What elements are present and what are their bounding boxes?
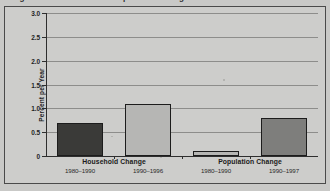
scanned-figure-page: Figure 2. Household and Population Chang… (0, 0, 330, 191)
y-axis-tick-label: 0.5 (31, 129, 40, 136)
scan-speckle (111, 136, 113, 137)
x-axis-labels: 1980–19901990–1996Household Change1980–1… (46, 156, 318, 186)
y-axis-tick (42, 85, 47, 86)
gridline (46, 37, 318, 38)
y-axis-tick-label: 2.0 (31, 57, 40, 64)
y-axis-tick (42, 132, 47, 133)
x-axis-period-label: 1990–1997 (250, 167, 318, 174)
y-axis-tick-label: 3.0 (31, 10, 40, 17)
y-axis-tick-label: 1.5 (31, 81, 40, 88)
bar (57, 123, 103, 156)
chart-title-text: Figure 2. Household and Population Chang… (12, 0, 189, 2)
chart-frame: Percent per Year 00.51.01.52.02.53.0 198… (4, 6, 326, 184)
y-axis-tick (42, 37, 47, 38)
y-axis-tick (42, 61, 47, 62)
scan-speckle (223, 79, 225, 81)
x-axis-group-title: Household Change (46, 158, 182, 165)
x-axis-group-title: Population Change (182, 158, 318, 165)
gridline (46, 61, 318, 62)
y-axis-tick-label: 2.5 (31, 33, 40, 40)
plot-area: 00.51.01.52.02.53.0 (46, 13, 318, 156)
y-axis-tick-label: 0 (36, 153, 40, 160)
cropped-chart-title: Figure 2. Household and Population Chang… (0, 0, 330, 5)
bar (261, 118, 307, 156)
x-axis-period-label: 1980–1990 (182, 167, 250, 174)
gridline (46, 85, 318, 86)
scan-speckle (160, 157, 162, 158)
y-axis-title: Percent per Year (38, 68, 45, 122)
x-axis-period-label: 1980–1990 (46, 167, 114, 174)
y-axis-tick (42, 13, 47, 14)
gridline (46, 108, 318, 109)
x-axis-period-label: 1990–1996 (114, 167, 182, 174)
bar (125, 104, 171, 156)
gridline (46, 13, 318, 14)
y-axis-tick-label: 1.0 (31, 105, 40, 112)
y-axis-tick (42, 108, 47, 109)
